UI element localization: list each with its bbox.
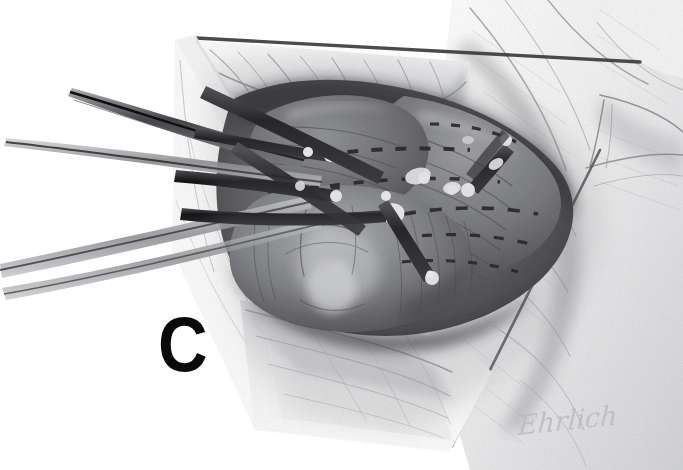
surgical-illustration-figure: C Ehrlich: [0, 0, 683, 470]
panel-label-c: C: [158, 306, 202, 382]
